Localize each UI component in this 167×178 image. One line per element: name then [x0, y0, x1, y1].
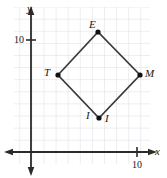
y-axis-label: y: [27, 3, 32, 14]
vertex-label-t: T: [44, 67, 50, 78]
vertex-label-e: E: [89, 19, 96, 30]
x-axis-label: x: [155, 146, 160, 157]
vertex-point-I: [96, 115, 101, 120]
vertex-label-m: M: [145, 68, 154, 79]
vertex-point-E: [95, 29, 100, 34]
coordinate-plane-figure: y x 10 10 T E M I I: [0, 0, 167, 178]
vertex-label-i-left: I: [86, 110, 90, 121]
vertex-point-M: [137, 72, 142, 77]
vertex-label-i: I: [105, 113, 109, 124]
graph-canvas: [0, 0, 167, 178]
vertex-point-T: [55, 72, 60, 77]
y-axis-arrow-down: [28, 167, 35, 176]
y-axis-tick-label-10: 10: [14, 35, 24, 45]
x-axis-tick-label-10: 10: [132, 160, 142, 170]
x-axis-arrow-left: [4, 149, 13, 156]
